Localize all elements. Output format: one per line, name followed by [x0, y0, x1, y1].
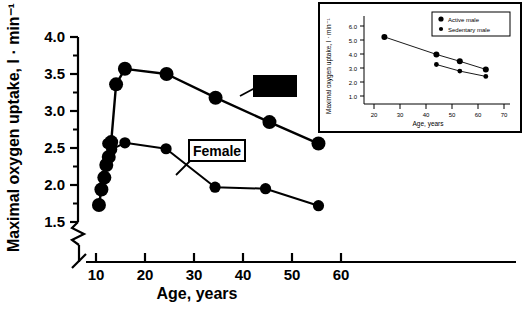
inset-ytick-5.0: 5.0 [349, 38, 358, 44]
inset-xtick-70: 70 [501, 112, 508, 118]
data-point [160, 143, 171, 154]
main-y-axis-title: Maximal oxygen uptake, l · min⁻¹ [5, 3, 22, 252]
inset-x-axis-title: Age, years [412, 120, 444, 128]
series-label-female: Female [176, 140, 245, 175]
data-point [434, 62, 439, 67]
main-xtick-10: 10 [88, 266, 105, 283]
inset-ytick-3.0: 3.0 [349, 66, 358, 72]
inset-series-sedentary-male [434, 62, 488, 79]
inset-xtick-20: 20 [371, 112, 378, 118]
data-point [381, 34, 387, 40]
data-point [262, 115, 276, 129]
legend-marker-sedentary-icon [439, 27, 443, 31]
main-ytick-3.5: 3.5 [44, 65, 65, 82]
data-point [106, 144, 117, 155]
data-point [209, 182, 220, 193]
data-point [97, 171, 111, 185]
inset-chart-panel: Maximal oxygen uptake, l · min⁻¹ Age, ye… [318, 2, 522, 133]
inset-series-active-male [381, 34, 488, 72]
data-point [433, 51, 439, 57]
main-xtick-20: 20 [137, 266, 154, 283]
data-point [209, 91, 223, 105]
main-x-axis-title: Age, years [157, 285, 238, 302]
inset-legend-label-active: Active male [448, 17, 480, 23]
data-point [160, 67, 174, 81]
data-point [457, 69, 462, 74]
series-label-female-text: Female [193, 143, 241, 159]
data-point [483, 66, 489, 72]
main-ytick-3.0: 3.0 [44, 102, 65, 119]
data-point [92, 198, 106, 212]
series-label-male-text: Male [259, 78, 290, 94]
main-xtick-30: 30 [186, 266, 203, 283]
data-point [483, 74, 488, 79]
figure-root: Maximal oxygen uptake, l · min⁻¹ Age, ye… [0, 0, 524, 310]
legend-marker-active-icon [438, 16, 443, 21]
data-point [119, 137, 130, 148]
inset-ytick-1.0: 1.0 [349, 94, 358, 100]
inset-xtick-50: 50 [449, 112, 456, 118]
inset-xtick-60: 60 [475, 112, 482, 118]
series-label-male: Male [240, 76, 296, 96]
inset-legend-label-sedentary: Sedentary male [448, 27, 491, 33]
inset-y-ticks: 6.0 5.0 4.0 3.0 2.0 1.0 [349, 24, 364, 100]
main-xtick-60: 60 [333, 266, 350, 283]
inset-ytick-4.0: 4.0 [349, 52, 358, 58]
main-y-ticks: 4.0 3.5 3.0 2.5 2.0 1.5 [44, 28, 78, 230]
main-ytick-4.0: 4.0 [44, 28, 65, 45]
inset-xtick-30: 30 [397, 112, 404, 118]
data-point [118, 62, 132, 76]
main-ytick-2.0: 2.0 [44, 176, 65, 193]
main-xtick-40: 40 [235, 266, 252, 283]
inset-chart: Maximal oxygen uptake, l · min⁻¹ Age, ye… [320, 4, 520, 131]
data-point [94, 182, 108, 196]
inset-ytick-6.0: 6.0 [349, 24, 358, 30]
data-point [260, 183, 271, 194]
inset-x-ticks: 20 30 40 50 60 70 [371, 104, 508, 118]
inset-y-axis-title: Maximal oxygen uptake, l · min⁻¹ [325, 17, 333, 114]
main-x-ticks: 10 20 30 40 50 60 [88, 253, 350, 283]
main-ytick-2.5: 2.5 [44, 139, 65, 156]
inset-xtick-40: 40 [423, 112, 430, 118]
main-ytick-1.5: 1.5 [44, 213, 65, 230]
data-point [313, 200, 324, 211]
data-point [311, 137, 325, 151]
main-xtick-50: 50 [284, 266, 301, 283]
data-point [109, 77, 123, 91]
data-point [457, 58, 463, 64]
inset-ytick-2.0: 2.0 [349, 80, 358, 86]
inset-legend: Active male Sedentary male [432, 12, 510, 36]
